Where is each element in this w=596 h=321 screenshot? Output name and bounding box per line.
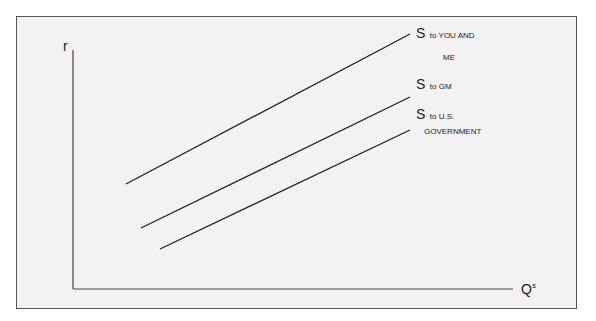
y-axis-label: r: [63, 38, 68, 54]
label-s-us-government-line2: GOVERNMENT: [424, 127, 481, 136]
label-s-you-and-me-line2: ME: [443, 53, 455, 62]
supply-diagram: [0, 0, 596, 321]
x-axis-label: Qs: [521, 281, 536, 297]
supply-line-you-and-me: [126, 34, 410, 184]
supply-line-gm: [141, 97, 410, 228]
supply-line-us-government: [160, 130, 410, 249]
label-s-us-government: S to U.S.: [416, 105, 454, 123]
label-s-gm: S to GM: [416, 75, 452, 93]
label-s-you-and-me: S to YOU AND: [416, 24, 475, 42]
